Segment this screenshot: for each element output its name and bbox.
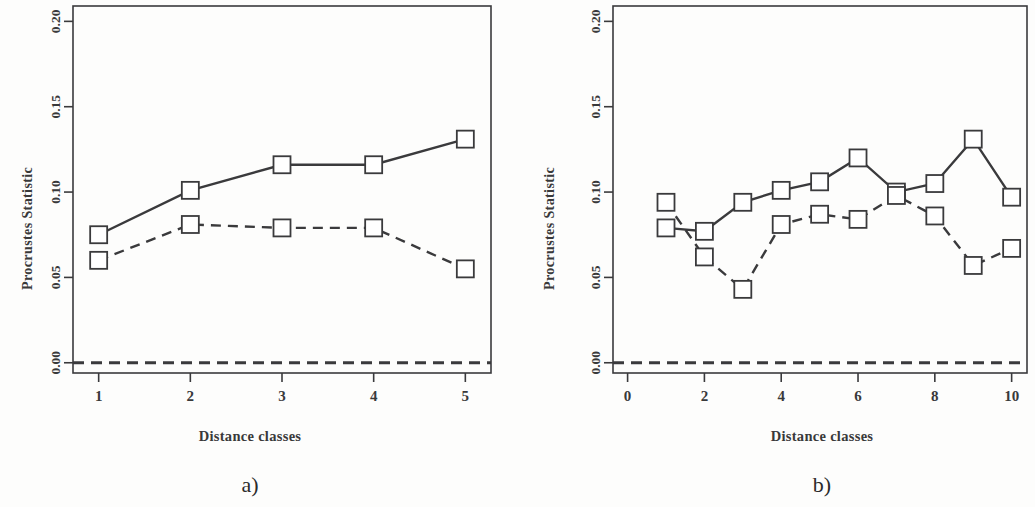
data-point-marker — [850, 149, 867, 166]
data-point-marker — [773, 182, 790, 199]
x-tick-label: 6 — [854, 388, 862, 404]
y-tick-label: 0.00 — [588, 351, 603, 375]
open-square-icon — [1003, 189, 1020, 206]
panel-a-caption: a) — [0, 472, 500, 498]
panel-a: 0.000.050.100.150.2012345 Procrustes Sta… — [0, 0, 517, 507]
open-square-icon — [1003, 240, 1020, 257]
open-square-icon — [734, 281, 751, 298]
x-tick-label: 5 — [462, 388, 470, 404]
data-point-marker — [658, 219, 675, 236]
y-tick-label: 0.15 — [588, 95, 603, 119]
panel-b-y-axis-label: Procrustes Statistic — [542, 167, 558, 290]
y-tick-label: 0.00 — [48, 351, 63, 375]
open-square-icon — [365, 219, 382, 236]
data-point-marker — [773, 216, 790, 233]
data-point-marker — [965, 131, 982, 148]
x-tick-label: 10 — [1004, 388, 1019, 404]
data-point-marker — [926, 207, 943, 224]
y-tick-label: 0.05 — [48, 265, 63, 289]
y-tick-label: 0.20 — [588, 9, 603, 33]
panel-b-plot: 0.000.050.100.150.200246810 — [517, 0, 1035, 420]
data-point-marker — [811, 206, 828, 223]
panel-b: 0.000.050.100.150.200246810 Procrustes S… — [517, 0, 1035, 507]
open-square-icon — [965, 131, 982, 148]
x-tick-label: 1 — [95, 388, 103, 404]
open-square-icon — [888, 187, 905, 204]
open-square-icon — [457, 260, 474, 277]
x-tick-label: 2 — [187, 388, 195, 404]
open-square-icon — [182, 182, 199, 199]
y-tick-label: 0.15 — [48, 95, 63, 119]
panel-b-caption: b) — [612, 472, 1032, 498]
x-tick-label: 2 — [701, 388, 709, 404]
data-point-marker — [365, 219, 382, 236]
data-point-marker — [696, 248, 713, 265]
open-square-icon — [773, 182, 790, 199]
panel-a-plot: 0.000.050.100.150.2012345 — [0, 0, 517, 420]
open-square-icon — [365, 156, 382, 173]
data-point-marker — [888, 187, 905, 204]
figure-container: 0.000.050.100.150.2012345 Procrustes Sta… — [0, 0, 1035, 507]
open-square-icon — [965, 257, 982, 274]
x-tick-label: 4 — [777, 388, 785, 404]
open-square-icon — [811, 206, 828, 223]
data-point-marker — [926, 175, 943, 192]
open-square-icon — [926, 175, 943, 192]
panel-a-x-axis-label: Distance classes — [0, 428, 500, 445]
data-point-marker — [457, 131, 474, 148]
open-square-icon — [90, 226, 107, 243]
data-point-marker — [734, 281, 751, 298]
open-square-icon — [850, 149, 867, 166]
x-tick-label: 0 — [624, 388, 632, 404]
data-point-marker — [90, 252, 107, 269]
data-point-marker — [965, 257, 982, 274]
data-point-marker — [457, 260, 474, 277]
data-point-marker — [274, 219, 291, 236]
data-point-marker — [274, 156, 291, 173]
data-point-marker — [811, 173, 828, 190]
open-square-icon — [457, 131, 474, 148]
data-point-marker — [696, 223, 713, 240]
open-square-icon — [696, 248, 713, 265]
y-tick-label: 0.20 — [48, 9, 63, 33]
plot-frame — [73, 6, 491, 373]
open-square-icon — [696, 223, 713, 240]
data-point-marker — [90, 226, 107, 243]
x-tick-label: 4 — [370, 388, 378, 404]
panel-b-x-axis-label: Distance classes — [612, 428, 1032, 445]
open-square-icon — [274, 219, 291, 236]
open-square-icon — [926, 207, 943, 224]
y-tick-label: 0.05 — [588, 265, 603, 289]
data-point-marker — [1003, 189, 1020, 206]
open-square-icon — [850, 211, 867, 228]
open-square-icon — [658, 194, 675, 211]
open-square-icon — [811, 173, 828, 190]
open-square-icon — [90, 252, 107, 269]
data-point-marker — [658, 194, 675, 211]
panel-a-y-axis-label: Procrustes Statistic — [20, 167, 36, 290]
x-tick-label: 3 — [278, 388, 286, 404]
data-point-marker — [182, 216, 199, 233]
y-tick-label: 0.10 — [588, 180, 603, 204]
data-point-marker — [1003, 240, 1020, 257]
data-point-marker — [365, 156, 382, 173]
open-square-icon — [734, 194, 751, 211]
open-square-icon — [182, 216, 199, 233]
x-tick-label: 8 — [931, 388, 939, 404]
data-point-marker — [850, 211, 867, 228]
open-square-icon — [658, 219, 675, 236]
open-square-icon — [274, 156, 291, 173]
open-square-icon — [773, 216, 790, 233]
series-line-dashed-series — [666, 195, 1012, 289]
series-line-solid-series — [666, 139, 1012, 231]
y-tick-label: 0.10 — [48, 180, 63, 204]
data-point-marker — [734, 194, 751, 211]
data-point-marker — [182, 182, 199, 199]
